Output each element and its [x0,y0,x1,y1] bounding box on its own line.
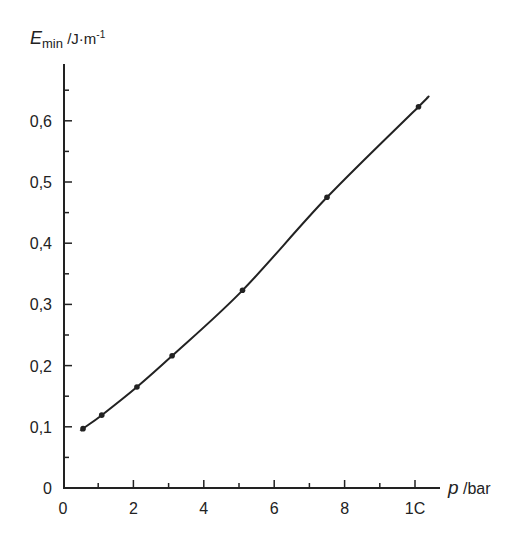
x-tick-label: 1C [405,500,425,517]
x-tick-label: 4 [199,500,208,517]
ticks [64,90,415,488]
x-tick-label: 0 [59,500,68,517]
data-point [99,412,105,418]
y-tick-label: 0 [43,480,52,497]
x-tick-label: 8 [340,500,349,517]
axes [63,64,440,489]
x-tick-label: 2 [129,500,138,517]
y-tick-label: 0,3 [30,296,52,313]
y-tick-label: 0,1 [30,419,52,436]
y-tick-label: 0,2 [30,358,52,375]
data-point [80,426,86,432]
data-point [240,288,246,294]
tick-labels: 024681C00,10,20,30,40,50,6 [30,113,425,517]
x-axis-label: p /bar [447,477,491,498]
data-curve [81,96,429,431]
y-tick-label: 0,5 [30,174,52,191]
chart: 024681C00,10,20,30,40,50,6 Emin /J·m-1 p… [0,0,524,551]
data-point [134,384,140,390]
x-tick-label: 6 [270,500,279,517]
y-tick-label: 0,6 [30,113,52,130]
y-axis-label: Emin /J·m-1 [30,28,106,51]
data-point [416,104,422,110]
data-point [169,353,175,359]
data-point [324,195,330,201]
y-tick-label: 0,4 [30,235,52,252]
